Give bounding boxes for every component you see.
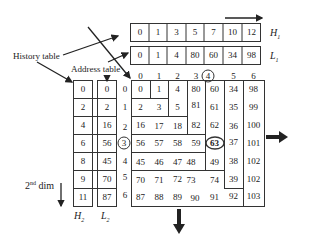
grid-cell: 16 <box>131 121 150 130</box>
grid-cell-circled: 63 <box>205 139 224 148</box>
h1-label: H1 <box>270 27 280 40</box>
grid-cell: 4 <box>168 85 187 94</box>
grid-cell: 88 <box>150 193 168 202</box>
col-index: 0 <box>131 72 150 81</box>
col-index: 5 <box>224 72 243 81</box>
grid-cell: 99 <box>243 103 264 112</box>
grid-cell: 60 <box>205 85 224 94</box>
h1-cell: 1 <box>149 28 167 37</box>
grid-cell: 101 <box>243 139 264 148</box>
l1-cell: 1 <box>149 51 167 60</box>
col-index: 3 <box>187 72 205 81</box>
grid-cell: 35 <box>224 103 243 112</box>
grid-cell: 100 <box>243 121 264 130</box>
grid-cell: 82 <box>187 121 205 130</box>
history-table-label: History table <box>13 51 60 61</box>
l1-cell: 80 <box>186 51 204 60</box>
row-index: 5 <box>121 173 129 182</box>
grid-cell: 38 <box>224 157 243 166</box>
grid-cell: 80 <box>187 85 205 94</box>
grid-cell: 34 <box>224 85 243 94</box>
grid-cell: 45 <box>131 158 150 167</box>
h1-cell: 12 <box>242 28 261 37</box>
grid-cell: 1 <box>150 85 168 94</box>
row-index: 0 <box>121 85 129 94</box>
l2-cell: 87 <box>98 193 116 202</box>
l2-cell: 2 <box>98 103 116 112</box>
grid-cell: 62 <box>205 121 224 130</box>
grid-cell: 102 <box>243 175 264 184</box>
grid-cell: 58 <box>168 139 187 148</box>
col-index: 1 <box>150 72 168 81</box>
h2-label: H2 <box>74 210 84 223</box>
grid-cell: 61 <box>205 103 224 112</box>
l1-cell: 0 <box>131 51 149 60</box>
h1-cell: 5 <box>186 28 204 37</box>
grid-cell: 73 <box>182 176 200 185</box>
grid-cell: 92 <box>224 192 243 201</box>
h2-cell: 9 <box>74 175 92 184</box>
grid-cell: 0 <box>131 85 150 94</box>
l1-label: L1 <box>270 50 279 63</box>
grid-cell: 98 <box>243 85 264 94</box>
l2-cell: 45 <box>98 157 116 166</box>
grid-cell: 48 <box>182 158 200 167</box>
grid-cell: 17 <box>150 122 168 131</box>
grid-cell: 5 <box>168 103 187 112</box>
h1-cell: 3 <box>167 28 186 37</box>
h2-cell: 8 <box>74 157 92 166</box>
grid-cell: 70 <box>131 176 150 185</box>
h2-cell: 6 <box>74 139 92 148</box>
col-index: 6 <box>243 72 264 81</box>
grid-cell: 103 <box>243 192 264 201</box>
col-index: 2 <box>168 72 187 81</box>
grid-cell: 39 <box>224 175 243 184</box>
grid-cell: 91 <box>205 193 224 202</box>
address-table-label: Address table <box>71 64 120 74</box>
h1-cell: 0 <box>131 28 149 37</box>
grid-cell: 57 <box>150 139 168 148</box>
grid-cell: 74 <box>205 176 224 185</box>
col-index-circled: 4 <box>204 72 212 81</box>
row-index: 4 <box>121 157 129 166</box>
h2-cell: 2 <box>74 103 92 112</box>
h1-cell: 10 <box>223 28 242 37</box>
h2-cell: 0 <box>74 85 92 94</box>
l2-cell: 70 <box>98 175 116 184</box>
grid-cell: 81 <box>187 101 205 110</box>
l1-cell: 60 <box>204 51 223 60</box>
grid-cell: 89 <box>168 193 187 202</box>
row-index: 6 <box>121 191 129 200</box>
second-dim-label: 2nd dim <box>25 180 54 191</box>
l1-cell: 4 <box>167 51 186 60</box>
l1-cell: 98 <box>242 51 261 60</box>
grid-cell: 59 <box>187 139 205 148</box>
grid-cell: 3 <box>150 103 168 112</box>
l2-label: L2 <box>101 210 110 223</box>
grid-cell: 18 <box>168 122 187 131</box>
grid-cell: 102 <box>243 157 264 166</box>
grid-cell: 87 <box>131 193 150 202</box>
l2-cell: 0 <box>98 85 116 94</box>
l1-cell: 34 <box>223 51 242 60</box>
grid-cell: 49 <box>205 158 224 167</box>
h2-cell: 11 <box>74 193 92 202</box>
grid-cell: 2 <box>131 103 150 112</box>
grid-cell: 36 <box>224 122 243 131</box>
grid-cell: 90 <box>186 194 204 203</box>
h2-cell: 4 <box>74 121 92 130</box>
grid-cell: 37 <box>224 138 243 147</box>
row-index-circled: 3 <box>120 139 128 148</box>
grid-cell: 56 <box>131 139 150 148</box>
l2-cell: 16 <box>98 121 116 130</box>
row-index: 2 <box>121 123 129 132</box>
row-index: 1 <box>121 103 129 112</box>
h1-cell: 7 <box>204 28 223 37</box>
grid-cell: 46 <box>150 158 168 167</box>
l2-cell: 56 <box>98 139 116 148</box>
grid-cell: 71 <box>150 176 168 185</box>
